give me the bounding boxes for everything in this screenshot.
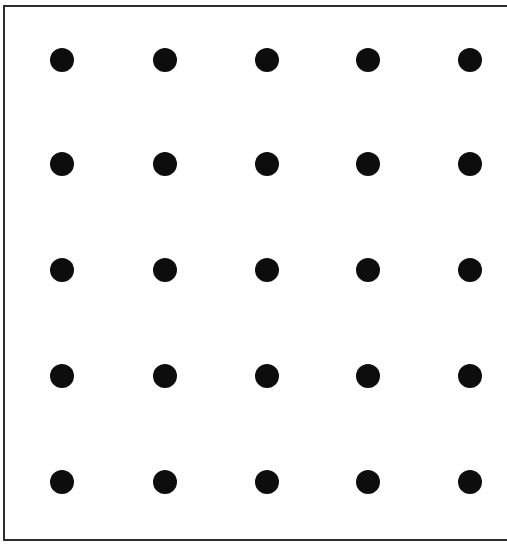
grid-dot [50,152,74,176]
grid-dot [255,258,279,282]
grid-dot [153,258,177,282]
grid-dot [458,48,482,72]
grid-dot [255,470,279,494]
grid-dot [255,152,279,176]
grid-dot [255,364,279,388]
grid-dot [153,470,177,494]
grid-dot [356,48,380,72]
grid-dot [356,258,380,282]
grid-dot [356,152,380,176]
grid-dot [153,364,177,388]
grid-dot [356,470,380,494]
grid-dot [356,364,380,388]
grid-dot [458,364,482,388]
grid-dot [153,48,177,72]
grid-dot [50,48,74,72]
grid-dot [50,364,74,388]
grid-dot [458,470,482,494]
grid-dot [153,152,177,176]
grid-dot [50,470,74,494]
grid-dot [458,258,482,282]
grid-dot [255,48,279,72]
grid-dot [458,152,482,176]
grid-dot [50,258,74,282]
